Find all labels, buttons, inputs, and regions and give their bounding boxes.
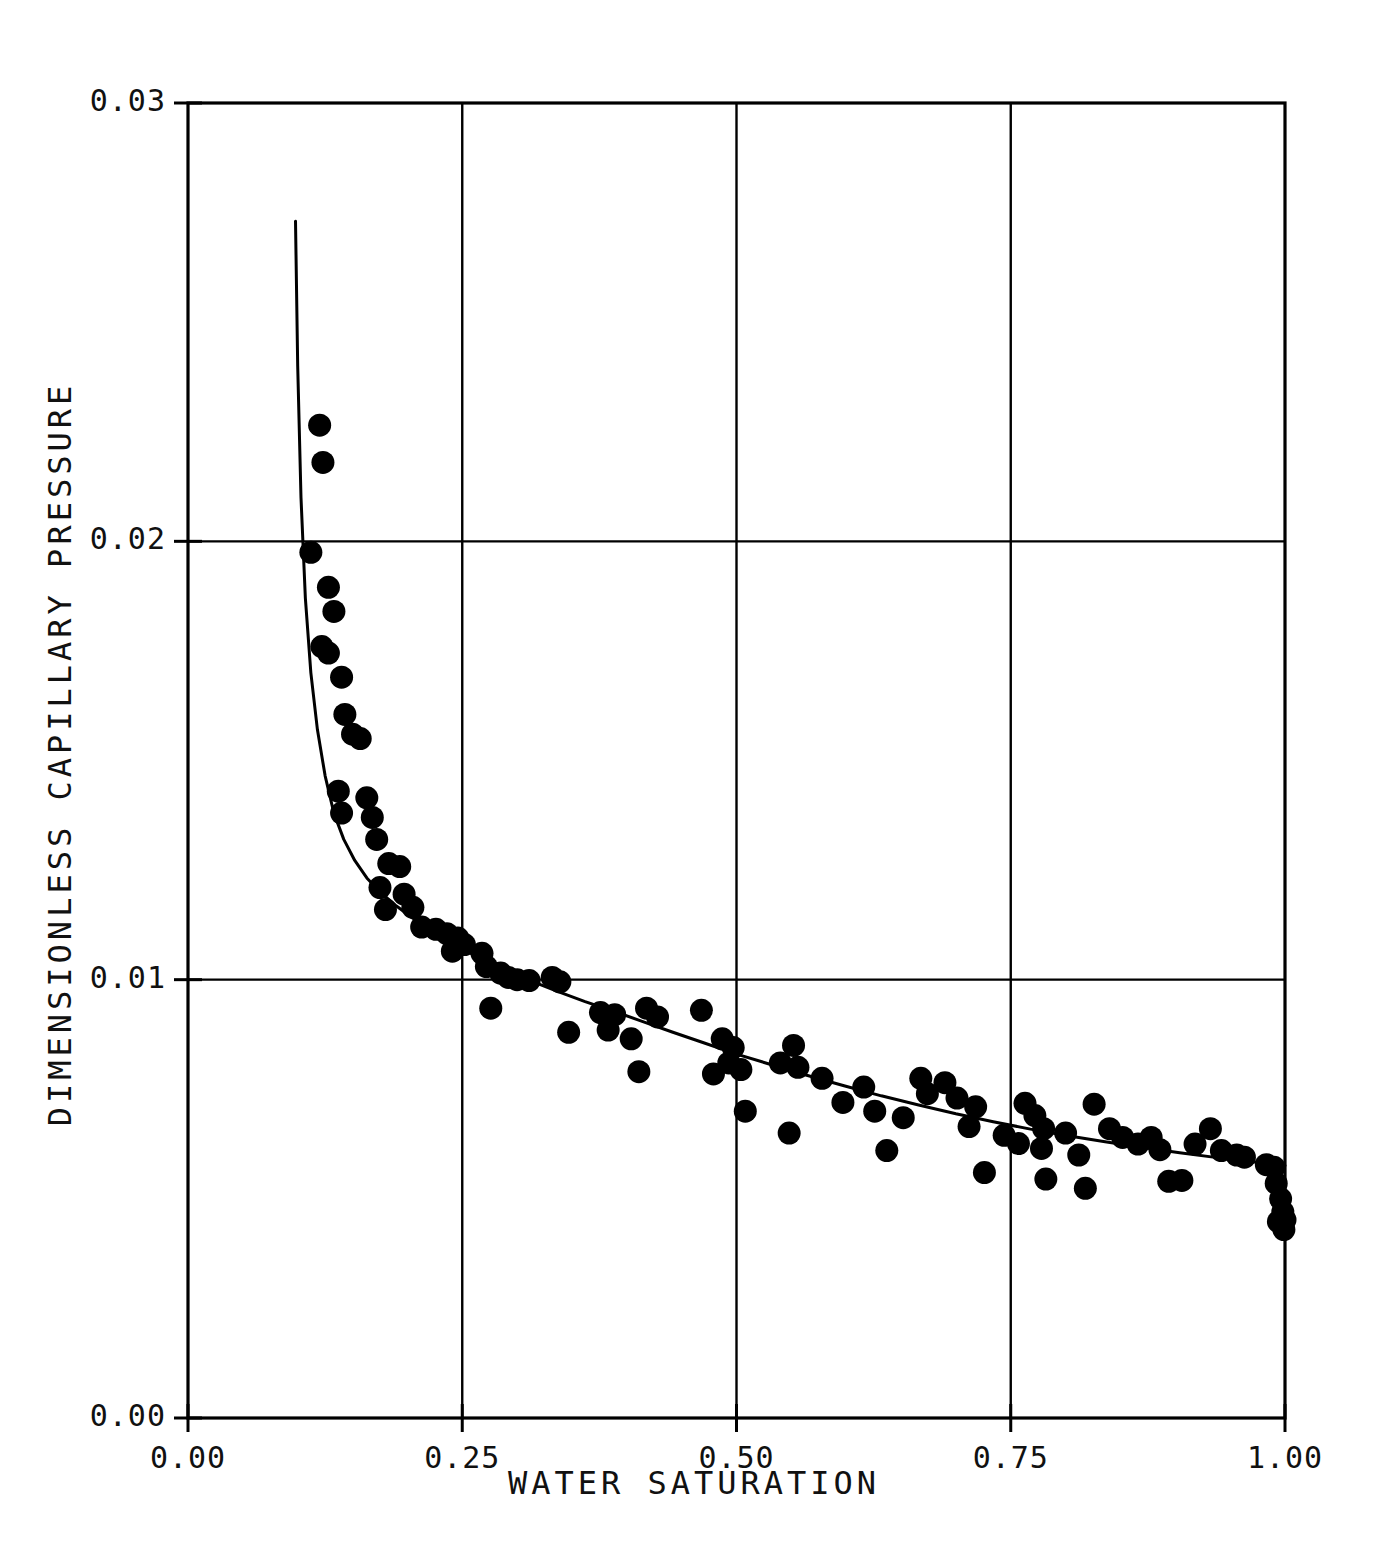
y-tick-label: 0.00 — [90, 1398, 166, 1433]
y-axis-title: DIMENSIONLESS CAPILLARY PRESSURE — [41, 114, 79, 1394]
data-point — [778, 1122, 801, 1145]
data-point — [401, 896, 424, 919]
data-point — [1054, 1122, 1077, 1145]
data-point — [365, 828, 388, 851]
data-point — [1233, 1146, 1256, 1169]
data-point — [729, 1058, 752, 1081]
data-point — [1199, 1117, 1222, 1140]
data-point — [1007, 1132, 1030, 1155]
data-point — [1067, 1144, 1090, 1167]
data-point — [1032, 1117, 1055, 1140]
x-axis-title: WATER SATURATION — [0, 1464, 1388, 1502]
fitted-curve — [296, 221, 1285, 1165]
data-point — [368, 876, 391, 899]
data-point — [958, 1115, 981, 1138]
data-point — [1083, 1093, 1106, 1116]
data-point — [327, 780, 350, 803]
data-point — [557, 1021, 580, 1044]
data-point — [1034, 1168, 1057, 1191]
data-point — [852, 1076, 875, 1099]
data-point — [1148, 1138, 1171, 1161]
data-point — [311, 451, 334, 474]
data-point — [361, 806, 384, 829]
data-point — [973, 1161, 996, 1184]
data-point — [548, 970, 571, 993]
data-point — [1170, 1169, 1193, 1192]
data-point — [863, 1100, 886, 1123]
data-point — [308, 414, 331, 437]
data-point — [1074, 1177, 1097, 1200]
data-point — [330, 666, 353, 689]
data-point — [831, 1091, 854, 1114]
data-point — [786, 1056, 809, 1079]
data-point — [734, 1100, 757, 1123]
data-point — [620, 1027, 643, 1050]
grid-lines — [188, 103, 1285, 1418]
data-point — [646, 1005, 669, 1028]
data-point — [875, 1139, 898, 1162]
y-tick-label: 0.03 — [90, 83, 166, 118]
data-point — [349, 727, 372, 750]
data-point — [299, 541, 322, 564]
data-point — [811, 1067, 834, 1090]
data-point — [892, 1106, 915, 1129]
data-point — [317, 642, 340, 665]
data-point — [317, 576, 340, 599]
y-tick-label: 0.01 — [90, 960, 166, 995]
data-point — [627, 1060, 650, 1083]
fit-curve-path — [296, 221, 1285, 1165]
data-point — [388, 855, 411, 878]
data-points — [299, 414, 1296, 1241]
data-point — [690, 999, 713, 1022]
data-point — [597, 1019, 620, 1042]
data-point — [964, 1095, 987, 1118]
data-point — [518, 969, 541, 992]
data-point — [355, 786, 378, 809]
data-point — [1030, 1137, 1053, 1160]
data-point — [702, 1062, 725, 1085]
y-tick-label: 0.02 — [90, 521, 166, 556]
data-point — [322, 600, 345, 623]
data-point — [330, 802, 353, 825]
data-point — [1272, 1218, 1295, 1241]
data-point — [479, 997, 502, 1020]
data-point — [374, 898, 397, 921]
data-point — [441, 940, 464, 963]
data-point — [782, 1034, 805, 1057]
data-point — [333, 703, 356, 726]
capillary-pressure-figure: 0.000.010.020.03 0.000.250.500.751.00 WA… — [0, 0, 1388, 1565]
axis-ticks — [174, 103, 1285, 1432]
plot-canvas — [0, 0, 1388, 1565]
